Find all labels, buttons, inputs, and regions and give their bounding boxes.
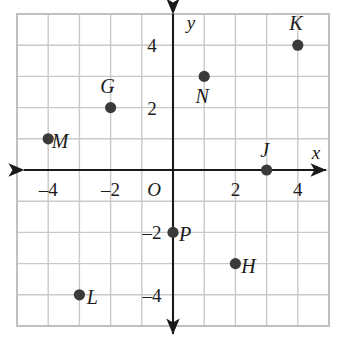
data-point-j [261, 164, 272, 175]
point-label-j: J [260, 140, 269, 160]
x-tick-label: 4 [293, 180, 303, 199]
axes [24, 14, 326, 334]
point-label-g: G [100, 76, 114, 96]
y-tick-label: 2 [147, 98, 157, 117]
point-label-n: N [196, 86, 209, 106]
data-point-n [199, 71, 210, 82]
data-point-l [74, 289, 85, 300]
point-label-k: K [289, 13, 302, 33]
data-point-p [167, 227, 178, 238]
x-tick-label: 2 [231, 180, 241, 199]
coordinate-plane-figure: KNGMJPHL–4–22442–2–4Oxy [0, 0, 346, 346]
y-tick-label: –4 [143, 285, 162, 304]
data-point-h [230, 258, 241, 269]
x-tick-label: –2 [101, 180, 120, 199]
point-label-m: M [52, 131, 69, 151]
point-label-p: P [179, 224, 191, 244]
origin-label: O [147, 180, 161, 199]
data-point-k [292, 40, 303, 51]
y-tick-label: –2 [143, 223, 162, 242]
coordinate-plot-svg [0, 0, 346, 346]
x-tick-label: –4 [39, 180, 58, 199]
data-point-g [105, 102, 116, 113]
x-axis-label: x [312, 143, 320, 162]
y-axis-label: y [187, 13, 195, 32]
point-label-h: H [241, 256, 255, 276]
point-label-l: L [87, 287, 98, 307]
y-tick-label: 4 [147, 36, 157, 55]
